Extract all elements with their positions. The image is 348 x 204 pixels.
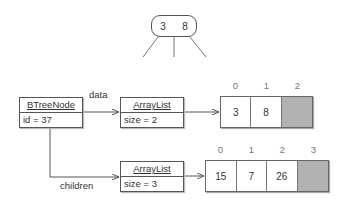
array-cell: 26 xyxy=(267,161,298,191)
field-size: size = 2 xyxy=(121,113,183,127)
array-index: 2 xyxy=(267,144,298,155)
node-key: 3 xyxy=(160,21,166,32)
children-array: 15 7 26 xyxy=(205,160,329,192)
field-size: size = 3 xyxy=(121,177,183,191)
array-index: 0 xyxy=(220,80,251,91)
class-name: ArrayList xyxy=(121,162,183,177)
class-name: BTreeNode xyxy=(20,98,82,113)
btreenode-object: BTreeNode id = 37 xyxy=(19,97,83,128)
array-index: 3 xyxy=(298,144,329,155)
data-arraylist-object: ArrayList size = 2 xyxy=(120,97,184,128)
array-cell: 15 xyxy=(206,161,237,191)
node-key: 8 xyxy=(182,21,188,32)
children-arraylist-object: ArrayList size = 3 xyxy=(120,161,184,192)
array-cell-empty xyxy=(282,97,312,127)
array-cell: 3 xyxy=(221,97,251,127)
data-array: 3 8 xyxy=(220,96,313,128)
array-cell: 8 xyxy=(251,97,281,127)
data-edge-label: data xyxy=(89,89,108,100)
children-edge-label: children xyxy=(60,180,93,191)
array-index: 2 xyxy=(282,80,313,91)
array-index: 0 xyxy=(205,144,236,155)
array-cell-empty xyxy=(298,161,328,191)
array-cell: 7 xyxy=(237,161,268,191)
btree-node-pill: 3 8 xyxy=(151,15,197,37)
array-index: 1 xyxy=(251,80,282,91)
array-index: 1 xyxy=(236,144,267,155)
class-name: ArrayList xyxy=(121,98,183,113)
field-id: id = 37 xyxy=(20,113,82,127)
